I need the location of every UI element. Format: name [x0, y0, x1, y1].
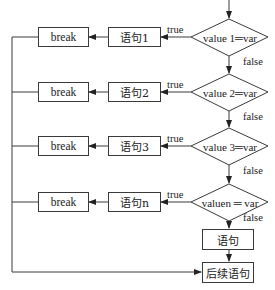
statement-box-1: 语句1 [108, 27, 161, 47]
condition-label-n: valuen ═ var [202, 198, 259, 209]
false-label-1: false [243, 57, 263, 68]
false-label-2: false [243, 112, 263, 123]
true-label-2: true [167, 80, 183, 91]
switch-flowchart: break 语句1 true value 1═var false break 语… [0, 0, 275, 290]
default-statement-box: 语句 [202, 229, 254, 250]
condition-label-2: value 2═var [203, 88, 257, 99]
false-label-3: false [243, 166, 263, 177]
true-label-3: true [167, 134, 183, 145]
true-label-n: true [167, 190, 183, 201]
next-statement-box: 后续语句 [202, 262, 254, 283]
break-box-3: break [38, 136, 89, 156]
statement-box-3: 语句3 [108, 136, 161, 156]
condition-label-1: value 1═var [203, 33, 257, 44]
statement-box-n: 语句n [108, 192, 161, 212]
false-label-n: false [243, 213, 263, 224]
break-box-1: break [38, 27, 89, 47]
break-box-2: break [38, 82, 89, 102]
condition-label-3: value 3═var [203, 142, 257, 153]
true-label-1: true [167, 25, 183, 36]
break-box-n: break [38, 192, 89, 212]
statement-box-2: 语句2 [108, 82, 161, 102]
